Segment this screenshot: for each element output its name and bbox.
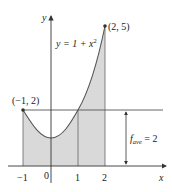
tick-label-m1: −1	[17, 172, 28, 183]
y-axis-label: y	[41, 12, 47, 23]
point-b	[103, 24, 107, 28]
fave-label: fave = 2	[130, 133, 157, 145]
graph: y x y = 1 + x2 (−1, 2) (2, 5) −1 0 1 2 f…	[0, 0, 172, 192]
tick-label-2: 2	[102, 172, 107, 183]
fave-sub: ave	[133, 138, 142, 145]
fave-eq: = 2	[142, 133, 158, 144]
point-a	[21, 108, 25, 112]
x-axis-label: x	[158, 172, 164, 183]
point-b-label: (2, 5)	[108, 21, 130, 33]
equation-text: y = 1 + x	[55, 38, 94, 49]
tick-label-0: 0	[44, 170, 49, 181]
equation-label: y = 1 + x2	[55, 37, 97, 49]
tick-label-1: 1	[75, 172, 80, 183]
point-a-label: (−1, 2)	[12, 95, 39, 107]
equation-exponent: 2	[93, 37, 96, 44]
